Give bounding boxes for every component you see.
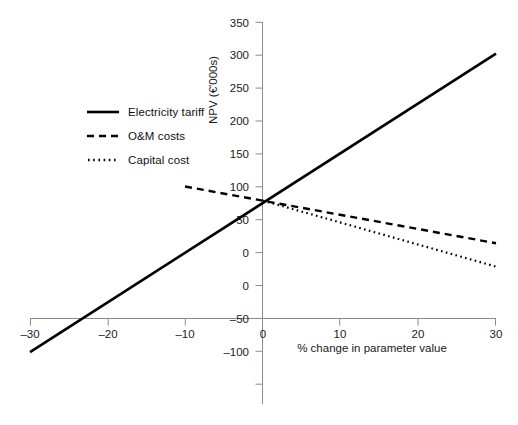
y-tick-labels: 350 300 250 200 150 100 50 0 –50 –100 <box>223 17 249 358</box>
x-tick-label: 10 <box>334 328 347 340</box>
legend-label: Electricity tariff <box>128 106 204 118</box>
x-tick-label: 30 <box>490 328 503 340</box>
y-tick-label: 300 <box>230 49 249 61</box>
legend-item-capital-cost: Capital cost <box>86 148 226 172</box>
x-tick-label: –10 <box>175 328 194 340</box>
x-axis-title: % change in parameter value <box>297 342 447 354</box>
y-tick-label-zero: 0 <box>243 280 249 292</box>
series-line-om-costs <box>185 187 496 244</box>
legend-item-om-costs: O&M costs <box>86 124 226 148</box>
y-tick-label: 100 <box>230 181 249 193</box>
legend-label: O&M costs <box>128 130 185 142</box>
y-tick-label: 0 <box>243 247 249 259</box>
y-tick-label: 350 <box>230 17 249 29</box>
solid-line-key-icon <box>86 106 120 118</box>
x-tick-label: –20 <box>98 328 117 340</box>
legend-label: Capital cost <box>128 154 189 166</box>
x-tick-labels: –30 –20 –10 0 10 20 30 <box>20 328 502 340</box>
dotted-line-key-icon <box>86 154 120 166</box>
dashed-line-key-icon <box>86 130 120 142</box>
x-tick-marks <box>31 319 496 326</box>
x-tick-label: 0 <box>260 328 266 340</box>
y-tick-label: 150 <box>230 148 249 160</box>
sensitivity-chart: –30 –20 –10 0 10 20 30 350 300 <box>0 0 518 425</box>
series-line-capital-cost <box>263 201 496 267</box>
y-tick-label: 200 <box>230 115 249 127</box>
y-tick-label: –50 <box>230 313 249 325</box>
y-tick-label: –100 <box>223 346 249 358</box>
chart-canvas: –30 –20 –10 0 10 20 30 350 300 <box>0 0 518 425</box>
legend-item-electricity-tariff: Electricity tariff <box>86 100 226 124</box>
chart-legend: Electricity tariff O&M costs Capital cos… <box>86 100 226 172</box>
y-tick-label: 250 <box>230 82 249 94</box>
x-tick-label: 20 <box>412 328 425 340</box>
x-tick-label: –30 <box>20 328 39 340</box>
